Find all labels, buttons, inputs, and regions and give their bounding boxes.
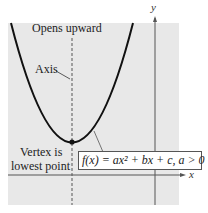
y-axis-arrow-icon [153, 16, 157, 22]
axis-pointer-line [56, 71, 70, 79]
vertex-label-line1: Vertex is [20, 146, 62, 159]
axis-label: Axis [35, 63, 58, 76]
x-axis-label: x [189, 168, 194, 180]
opens-upward-label: Opens upward [32, 22, 102, 35]
vertex-label-line2: lowest point [11, 160, 70, 173]
x-axis-arrow-icon [180, 173, 186, 177]
equation-pointer [94, 131, 113, 152]
y-axis-label: y [151, 1, 156, 13]
equation-box: f(x) = ax² + bx + c, a > 0 [78, 151, 202, 170]
vertex-point [69, 139, 74, 144]
